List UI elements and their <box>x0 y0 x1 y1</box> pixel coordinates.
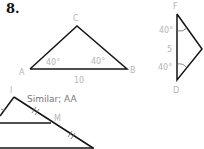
triangle-def-edges <box>177 14 202 80</box>
triangle-abc: C A B 40° 40° 10 <box>19 14 136 85</box>
triangle-def: F D 40° 5 40° <box>158 2 202 95</box>
vertex-b-label: B <box>130 66 136 75</box>
vertex-i-label: I <box>10 86 12 95</box>
geometry-problem-8: 8. C A B 40° 40° 10 F D 40° 5 40° Simila… <box>0 0 204 149</box>
side-ab-label: 10 <box>74 76 84 85</box>
vertex-c-label: C <box>73 14 79 23</box>
answer-text: Similar; AA <box>27 94 77 104</box>
angle-f-arc <box>177 28 187 31</box>
left-side <box>0 97 14 116</box>
diagram-canvas: 8. C A B 40° 40° 10 F D 40° 5 40° Simila… <box>0 0 204 149</box>
vertex-m-label: M <box>54 114 61 123</box>
vertex-a-label: A <box>19 68 25 77</box>
angle-a-label: 40° <box>46 58 60 67</box>
angle-d-arc <box>177 64 186 67</box>
angle-f-label: 40° <box>159 26 173 35</box>
problem-number: 8. <box>6 1 20 16</box>
angle-b-label: 40° <box>91 57 105 66</box>
angle-d-label: 40° <box>158 63 172 72</box>
vertex-d-label: D <box>173 86 179 95</box>
side-fd-label: 5 <box>167 45 172 54</box>
triangle-abc-edges <box>30 26 127 69</box>
vertex-f-label: F <box>173 2 178 11</box>
